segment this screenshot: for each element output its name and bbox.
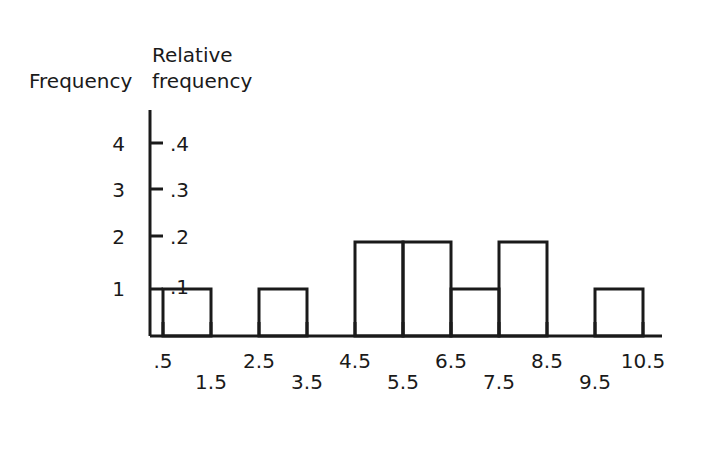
histogram-bar	[403, 242, 451, 336]
histogram-plot-area	[0, 0, 703, 451]
y-axis-tick-marks	[150, 143, 163, 289]
histogram-bar	[499, 242, 547, 336]
histogram-bars	[163, 242, 643, 336]
histogram-bar	[163, 289, 211, 336]
histogram-bar	[595, 289, 643, 336]
histogram-bar	[355, 242, 403, 336]
axis-lines	[150, 110, 662, 336]
histogram-bar	[451, 289, 499, 336]
histogram-chart: Frequency Relativefrequency 4 3 2 1 .4 .…	[0, 0, 703, 451]
histogram-bar	[259, 289, 307, 336]
